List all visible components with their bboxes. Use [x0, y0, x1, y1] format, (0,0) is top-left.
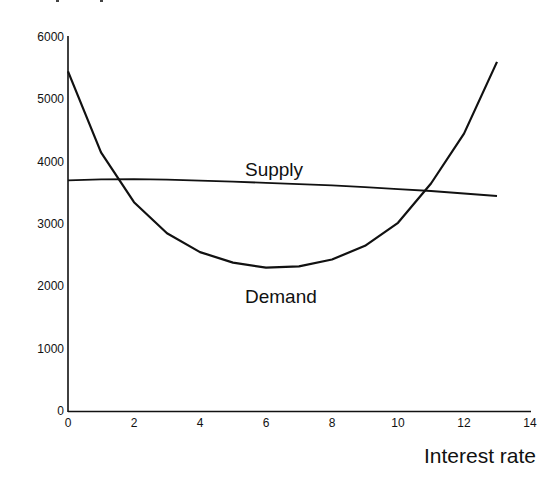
- y-tick-label: 0: [57, 404, 64, 418]
- x-tick-label: 6: [263, 416, 270, 430]
- y-tick-label: 4000: [37, 155, 64, 169]
- y-tick-label: 1000: [37, 342, 64, 356]
- x-tick-label: 2: [131, 416, 138, 430]
- cropped-text-fragment: [100, 0, 103, 2]
- y-tick-label: 2000: [37, 279, 64, 293]
- y-tick-label: 3000: [37, 217, 64, 231]
- chart: 0100020003000400050006000 02468101214 Su…: [0, 0, 558, 486]
- x-tick-label: 8: [329, 416, 336, 430]
- y-tick-label: 5000: [37, 92, 64, 106]
- demand-label: Demand: [245, 286, 317, 307]
- x-tick-label: 14: [523, 416, 537, 430]
- x-tick-labels: 02468101214: [65, 416, 537, 430]
- x-tick-label: 10: [391, 416, 405, 430]
- x-axis-title: Interest rate: [424, 444, 536, 467]
- supply-label: Supply: [245, 159, 304, 180]
- y-tick-label: 6000: [37, 30, 64, 44]
- y-tick-labels: 0100020003000400050006000: [37, 30, 64, 418]
- x-tick-label: 12: [457, 416, 471, 430]
- cropped-text-fragment: [56, 0, 59, 2]
- x-tick-label: 4: [197, 416, 204, 430]
- x-tick-label: 0: [65, 416, 72, 430]
